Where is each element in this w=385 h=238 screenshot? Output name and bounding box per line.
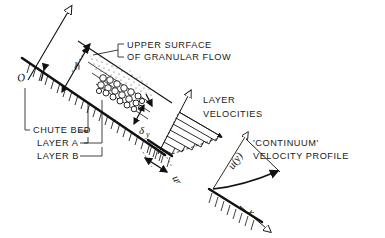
layer-label-leaders: [80, 137, 102, 156]
granular-flow-diagram: O: [0, 0, 385, 238]
diagram-canvas: O: [0, 0, 385, 238]
slip-velocity-arrow: [145, 158, 167, 172]
layer-velocities-label-line2: VELOCITIES: [203, 109, 263, 119]
origin-label: O: [16, 71, 26, 84]
upper-surface-leader: [93, 44, 124, 57]
upper-surface-label-line2: OF GRANULAR FLOW: [127, 52, 231, 62]
layer-b-label: LAYER B: [37, 151, 79, 161]
layer-a-label: LAYER A: [37, 138, 79, 148]
layer-thickness-label: δ: [139, 124, 145, 136]
y-axis-arrow: [28, 12, 68, 80]
chute-bed-label: CHUTE BED: [33, 125, 91, 135]
layer-velocities-label-line1: LAYER: [203, 95, 235, 105]
height-dimension-h: h: [62, 46, 88, 92]
velocity-profile-label: u(y): [225, 149, 246, 171]
upper-surface-label-line1: UPPER SURFACE: [127, 40, 212, 50]
continuum-label-line1: 'CONTINUUM': [253, 138, 319, 148]
continuum-label-line2: VELOCITY PROFILE: [253, 151, 349, 161]
layer-thickness-subscript: y: [145, 130, 150, 139]
